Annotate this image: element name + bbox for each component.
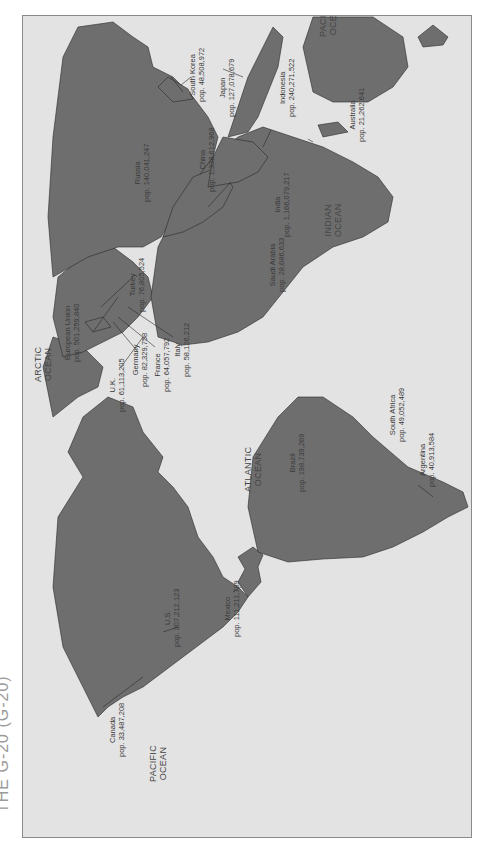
- label-germany: Germanypop. 82,329,758: [131, 333, 149, 387]
- label-australia: Australiapop. 21,262,641: [348, 88, 366, 142]
- label-uk: U.K.pop. 61,113,205: [108, 358, 126, 412]
- label-canada: Canadapop. 33,487,208: [108, 703, 126, 757]
- new-zealand-landmass: [418, 25, 448, 47]
- label-india: Indiapop. 1,166,079,217: [273, 172, 291, 237]
- label-south-korea: South Koreapop. 48,508,972: [188, 48, 206, 102]
- ocean-label-indian: INDIANOCEAN: [323, 203, 343, 237]
- ocean-label-pacific-west: PACIFICOCEAN: [148, 745, 168, 782]
- label-mexico: Mexicopop. 111,211,789: [223, 580, 241, 637]
- north-america-landmass: [53, 397, 248, 717]
- madagascar-landmass: [318, 122, 348, 137]
- label-russia: Russiapop. 140,041,247: [133, 144, 151, 202]
- indonesia-landmass: [228, 27, 283, 137]
- map-stage: THE G-20 (G-20): [0, 0, 477, 853]
- ocean-label-arctic: ARCTICOCEAN: [33, 347, 53, 382]
- map-title: THE G-20 (G-20): [0, 675, 12, 813]
- label-china: Chinapop. 1,338,612,968: [198, 127, 216, 192]
- label-us: U.S.pop. 307,212,123: [163, 589, 181, 647]
- map-frame: PACIFICOCEAN ATLANTICOCEAN ARCTICOCEAN I…: [22, 15, 472, 838]
- label-south-africa: South Africapop. 49,052,489: [388, 388, 406, 442]
- central-america-landmass: [238, 547, 263, 597]
- label-france: Francepop. 64,057,792: [153, 338, 171, 392]
- label-argentina: Argentinapop. 40,913,584: [418, 433, 436, 487]
- label-indonesia: Indonesiapop. 240,271,522: [278, 59, 296, 117]
- ocean-label-pacific-east: PACIFICOCEAN: [318, 15, 338, 37]
- label-brazil: Brazilpop. 198,739,269: [288, 434, 306, 492]
- ocean-label-atlantic: ATLANTICOCEAN: [243, 447, 263, 492]
- label-european-union: European Unionpop. 501,259,840: [63, 304, 81, 362]
- label-saudi-arabia: Saudi Arabiapop. 28,686,633: [268, 238, 286, 292]
- label-italy: Italypop. 58,126,212: [173, 323, 191, 377]
- label-japan: Japanpop. 127,078,679: [218, 59, 236, 117]
- label-turkey: Turkeypop. 76,805,524: [128, 258, 146, 312]
